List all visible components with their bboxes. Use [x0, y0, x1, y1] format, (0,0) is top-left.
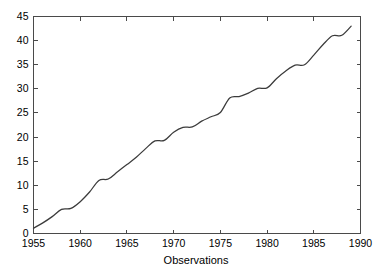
y-tick-label: 10: [17, 179, 29, 191]
y-tick-label: 20: [17, 131, 29, 143]
x-tick-label: 1975: [209, 237, 233, 249]
y-tick-label: 25: [17, 106, 29, 118]
y-tick-label: 5: [23, 203, 29, 215]
x-axis-title: Observations: [164, 254, 229, 266]
x-tick-label: 1985: [302, 237, 326, 249]
data-series-group: [34, 26, 352, 228]
y-tick-label: 40: [17, 34, 29, 46]
y-tick-label: 45: [17, 10, 29, 22]
x-tick-labels: 19551960196519701975198019851990: [22, 237, 373, 249]
y-tick-label: 15: [17, 155, 29, 167]
y-tick-label: 30: [17, 82, 29, 94]
chart-figure: 19551960196519701975198019851990 0510152…: [0, 0, 381, 278]
line-chart-canvas: 19551960196519701975198019851990 0510152…: [0, 0, 381, 278]
y-tick-labels: 051015202530354045: [17, 10, 29, 239]
y-tick-label: 0: [23, 227, 29, 239]
x-tick-label: 1980: [255, 237, 279, 249]
x-tick-label: 1960: [69, 237, 93, 249]
y-tick-label: 35: [17, 58, 29, 70]
x-tick-label: 1970: [162, 237, 186, 249]
x-tick-label: 1990: [349, 237, 373, 249]
x-tick-label: 1965: [115, 237, 139, 249]
data-line-cumulative-observations: [34, 26, 352, 228]
